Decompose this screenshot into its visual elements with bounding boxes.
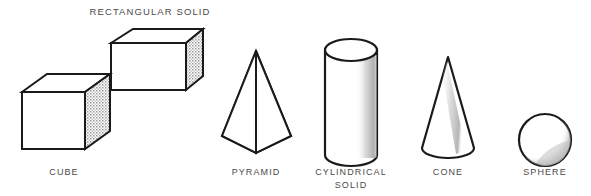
cone-shape — [422, 57, 474, 158]
sphere-label: SPHERE — [523, 167, 567, 177]
rectangular-solid-shape — [111, 29, 203, 90]
cube-front-face — [22, 92, 85, 149]
pyramid-shape — [222, 51, 291, 153]
solids-illustration: RECTANGULAR SOLID CUBE PYRAMID — [0, 0, 591, 196]
rectangular-solid-front-face — [111, 43, 186, 90]
cylinder-shape — [325, 39, 380, 166]
cone-label: CONE — [433, 167, 463, 177]
cylinder-label-line2: SOLID — [335, 180, 368, 190]
rectangular-solid-label: RECTANGULAR SOLID — [90, 6, 211, 17]
pyramid-label: PYRAMID — [232, 167, 281, 177]
cylinder-top-ellipse — [325, 39, 377, 61]
geometric-solids-figure: RECTANGULAR SOLID CUBE PYRAMID — [0, 0, 591, 196]
cube-label: CUBE — [49, 167, 78, 177]
cylinder-label-line1: CYLINDRICAL — [315, 167, 387, 177]
cube-shape — [22, 74, 110, 149]
cylinder-shading — [356, 55, 380, 158]
sphere-shape — [519, 114, 571, 168]
